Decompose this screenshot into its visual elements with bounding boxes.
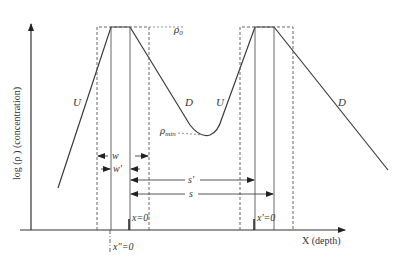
dashed-box-left (97, 27, 149, 230)
origin-x-label: x=0 (131, 212, 148, 223)
w-prime-label: w' (113, 163, 123, 174)
s-label: s (189, 188, 193, 199)
x-axis-label: X (depth) (302, 235, 341, 247)
segment-label-d-1: D (184, 96, 193, 108)
s-prime-label: s' (188, 174, 195, 185)
segment-label-u-1: U (73, 96, 82, 108)
segment-label-d-2: D (337, 96, 346, 108)
origin-x-double-prime-label: x"=0 (112, 241, 133, 252)
y-axis-label: log (ρ ) (concentration) (11, 87, 23, 180)
segment-label-u-2: U (216, 96, 225, 108)
dashed-box-right (240, 27, 293, 230)
rho0-label: ρ0 (173, 23, 183, 37)
concentration-depth-diagram: log (ρ ) (concentration) X (depth) ρ0 ρm… (0, 0, 408, 266)
w-label: w (112, 150, 119, 161)
rhomin-label: ρmin (159, 124, 176, 138)
origin-x-prime-label: x'=0 (256, 212, 275, 223)
